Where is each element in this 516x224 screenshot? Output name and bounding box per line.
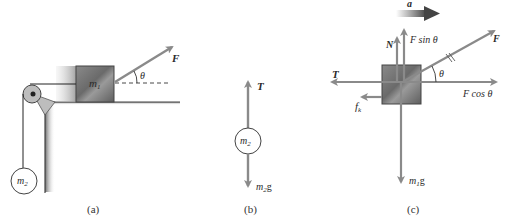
acceleration-label: a [407,0,412,9]
angle-arc [134,71,137,83]
weight-label-c: m1g [409,175,425,188]
hanging-mass-m2: m2 [11,168,37,194]
force-f-label: F [171,52,180,64]
f-sin-label: F sin θ [409,34,438,45]
block-m1: m1 [76,66,114,102]
tension-label: T [257,80,265,92]
force-f-label-c: F [492,33,500,44]
weight-label: m2g [256,181,272,194]
table [45,102,180,193]
pulley [23,85,41,103]
panel-a: m1 m2 F θ (a) [11,47,180,216]
panel-c: a T F cos θ fk N F sin θ m1g [332,0,500,216]
caption-b: (b) [244,203,257,216]
f-cos-label: F cos θ [462,88,492,99]
friction-label: fk [355,100,362,114]
free-body-diagram-figure: m1 m2 F θ (a) [0,0,516,224]
panel-b: T m2 m2g (b) [235,80,272,216]
angle-theta-label: θ [140,70,145,81]
acceleration-arrow [396,6,440,21]
angle-arc-c [432,66,436,82]
angle-theta-label-c: θ [439,68,444,79]
mass-m2: m2 [235,128,261,154]
normal-label: N [385,39,394,50]
caption-a: (a) [87,203,100,216]
caption-c: (c) [407,203,420,216]
tension-label-c: T [332,68,340,80]
